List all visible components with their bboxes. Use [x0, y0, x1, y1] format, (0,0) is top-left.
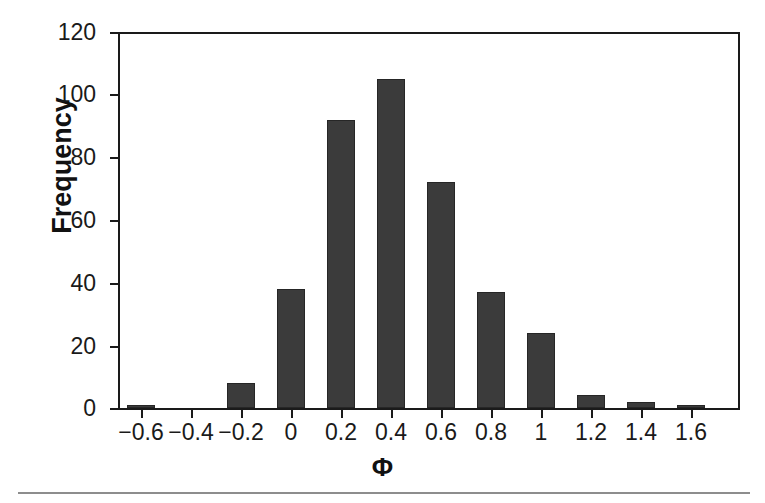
x-tick-mark-9 — [591, 408, 593, 418]
y-tick-label-60: 60 — [26, 209, 96, 232]
x-tick-mark-4 — [341, 408, 343, 418]
x-tick-mark-7 — [491, 408, 493, 418]
x-axis-title: Φ — [0, 452, 765, 483]
histogram-figure: Frequency 120 100 80 60 40 20 0 −0.6 −0.… — [0, 0, 765, 503]
x-tick-mark-2 — [241, 408, 243, 418]
y-tick-mark-100 — [110, 94, 120, 96]
y-tick-mark-0 — [110, 408, 120, 410]
y-tick-label-100: 100 — [26, 83, 96, 106]
x-tick-mark-0 — [141, 408, 143, 418]
plot-right-border — [738, 32, 740, 410]
x-axis-line — [118, 408, 740, 410]
x-tick-mark-11 — [691, 408, 693, 418]
x-tick-mark-10 — [641, 408, 643, 418]
x-tick-mark-1 — [191, 408, 193, 418]
y-tick-mark-80 — [110, 157, 120, 159]
plot-area — [118, 32, 740, 410]
y-tick-mark-60 — [110, 220, 120, 222]
y-tick-label-20: 20 — [26, 335, 96, 358]
x-tick-mark-3 — [291, 408, 293, 418]
page-footer-rule — [18, 492, 750, 494]
y-tick-mark-20 — [110, 346, 120, 348]
x-tick-label-11: 1.6 — [651, 421, 731, 444]
y-tick-label-40: 40 — [26, 272, 96, 295]
y-tick-mark-40 — [110, 283, 120, 285]
y-tick-label-0: 0 — [26, 397, 96, 420]
y-tick-label-120: 120 — [26, 21, 96, 44]
x-tick-mark-8 — [541, 408, 543, 418]
y-tick-label-80: 80 — [26, 146, 96, 169]
y-tick-mark-120 — [110, 32, 120, 34]
x-tick-mark-6 — [441, 408, 443, 418]
x-tick-mark-5 — [391, 408, 393, 418]
